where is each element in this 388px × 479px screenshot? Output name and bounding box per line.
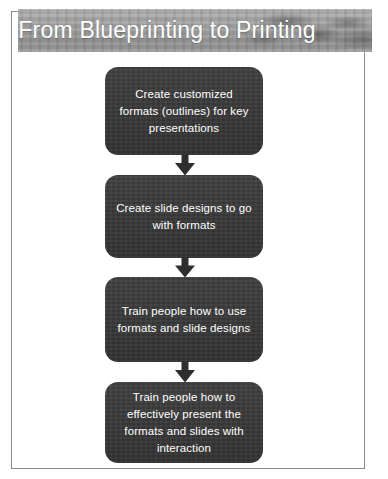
- slide: From Blueprinting to Printing Create cus…: [0, 0, 388, 479]
- flow-node-4[interactable]: Train people how to effectively present …: [105, 382, 263, 463]
- down-arrow-icon: [174, 154, 196, 176]
- flow-node-3-label: Train people how to use formats and slid…: [115, 303, 253, 337]
- flow-node-1[interactable]: Create customized formats (outlines) for…: [105, 67, 263, 155]
- flowchart: Create customized formats (outlines) for…: [0, 0, 388, 479]
- flow-node-2[interactable]: Create slide designs to go with formats: [105, 175, 263, 258]
- flow-node-3[interactable]: Train people how to use formats and slid…: [105, 277, 263, 362]
- flow-node-4-label: Train people how to effectively present …: [115, 389, 253, 457]
- down-arrow-icon: [174, 361, 196, 383]
- flow-node-1-label: Create customized formats (outlines) for…: [115, 86, 253, 137]
- down-arrow-icon: [174, 257, 196, 278]
- flow-node-2-label: Create slide designs to go with formats: [115, 200, 253, 234]
